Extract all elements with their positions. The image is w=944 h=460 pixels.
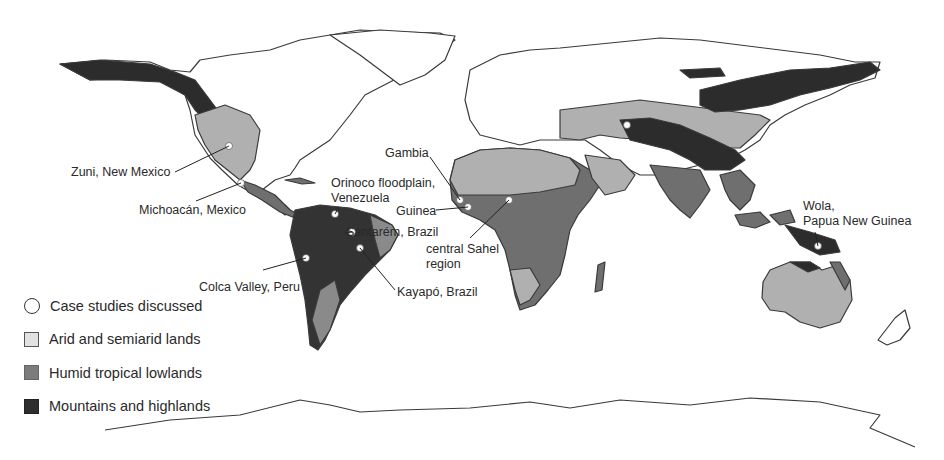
arid-swatch-icon <box>24 332 39 347</box>
mountains-swatch-icon <box>24 399 39 414</box>
label-gambia: Gambia <box>385 146 429 161</box>
label-wola-line1: Wola, <box>803 199 835 214</box>
legend-label: Arid and semiarid lands <box>49 331 201 347</box>
label-colca: Colca Valley, Peru <box>199 280 300 295</box>
antarctica <box>105 398 915 447</box>
south-asia-humid <box>650 165 710 218</box>
world-map-figure: Zuni, New Mexico Michoacán, Mexico Orino… <box>0 0 944 460</box>
legend-label: Humid tropical lowlands <box>49 365 202 381</box>
label-santarem: Santarém, Brazil <box>346 225 438 240</box>
legend-item-arid: Arid and semiarid lands <box>24 323 210 357</box>
label-sahel-line1: central Sahel <box>426 242 499 257</box>
label-michoacan: Michoacán, Mexico <box>139 203 246 218</box>
legend-item-humid: Humid tropical lowlands <box>24 356 210 390</box>
label-kayapo: Kayapó, Brazil <box>397 285 478 300</box>
humid-swatch-icon <box>24 365 39 380</box>
legend-item-case-studies: Case studies discussed <box>24 289 210 323</box>
label-orinoco-line2: Venezuela <box>331 191 389 206</box>
legend: Case studies discussed Arid and semiarid… <box>24 289 210 423</box>
legend-label: Case studies discussed <box>50 298 202 314</box>
label-orinoco-line1: Orinoco floodplain, <box>331 176 435 191</box>
label-wola-line2: Papua New Guinea <box>803 214 911 229</box>
central-america <box>240 180 300 218</box>
legend-item-mountains: Mountains and highlands <box>24 390 210 424</box>
legend-label: Mountains and highlands <box>49 398 210 414</box>
label-zuni: Zuni, New Mexico <box>71 165 170 180</box>
label-sahel-line2: region <box>426 257 461 272</box>
open-circle-icon <box>24 298 40 314</box>
label-guinea: Guinea <box>396 204 436 219</box>
